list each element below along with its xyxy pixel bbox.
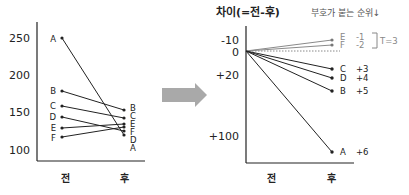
left-chart: 250 200 150 100 A B C D E F B C E F [9, 22, 145, 184]
line-F [62, 127, 124, 137]
diagram-canvas: 250 200 150 100 A B C D E F B C E F [0, 0, 409, 195]
rank-F: -2 [356, 40, 364, 50]
diff-label-A: A [340, 147, 346, 157]
line-A [62, 38, 124, 135]
right-x-label-after: 후 [327, 172, 336, 184]
line-E [62, 124, 124, 128]
diff-label-B: B [340, 86, 346, 96]
rank-A: +6 [356, 147, 369, 157]
left-label-D: D [49, 112, 56, 122]
left-y-tick-200: 200 [9, 69, 30, 82]
line-B [62, 91, 124, 110]
right-y-tick-0: 0 [232, 46, 239, 59]
left-label-E: E [51, 123, 56, 133]
right-y-tick-20: +20 [216, 69, 239, 82]
diff-label-D: D [340, 73, 347, 83]
left-y-tick-150: 150 [9, 106, 30, 119]
right-chart-title: 차이(=전-후) [216, 5, 280, 19]
bracket [372, 33, 377, 48]
right-x-label-before: 전 [267, 172, 276, 184]
diff-line-B [246, 51, 332, 91]
rank-B: +5 [356, 86, 369, 96]
left-series-lines [62, 38, 124, 137]
left-label-C: C [50, 101, 56, 111]
left-x-label-before: 전 [61, 172, 70, 184]
right-series-lines [246, 40, 332, 152]
right-chart: 차이(=전-후) 부호가 붙는 순위↓ -10 0 +20 +100 E -1 … [209, 5, 398, 184]
signed-rank-annotation: 부호가 붙는 순위↓ [311, 8, 380, 18]
right-points [330, 38, 333, 153]
diff-label-F: F [340, 40, 345, 50]
left-x-label-after: 후 [120, 172, 129, 184]
right-y-tick-100: +100 [209, 130, 239, 143]
left-label-B: B [50, 86, 56, 96]
left-label-F: F [51, 133, 56, 143]
left-y-tick-250: 250 [9, 32, 30, 45]
rank-D: +4 [356, 73, 369, 83]
left-label-A: A [50, 34, 56, 44]
right-arrow-icon [162, 83, 207, 107]
line-C [62, 106, 124, 118]
left-y-tick-100: 100 [9, 144, 30, 157]
right-label-A: A [130, 143, 136, 153]
t-statistic-label: T=3 [379, 36, 398, 46]
diff-line-D [246, 51, 332, 78]
left-points [60, 36, 125, 138]
